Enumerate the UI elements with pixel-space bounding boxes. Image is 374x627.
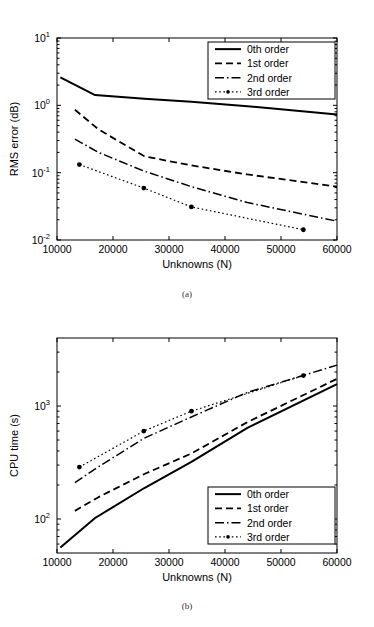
legend-label-3rd-order: 3rd order — [247, 531, 290, 543]
x-tick-label: 50000 — [266, 243, 295, 255]
legend-marker — [226, 535, 230, 539]
data-point-marker — [189, 409, 194, 414]
legend-label-0th-order: 0th order — [247, 43, 290, 55]
x-tick-label: 10000 — [42, 556, 71, 568]
data-point-marker — [77, 465, 82, 470]
x-tick-label: 20000 — [98, 243, 127, 255]
chart-panel-rms-error: 10000200003000040000500006000010-210-110… — [0, 0, 374, 313]
series-line-2nd-order — [75, 139, 337, 221]
legend-label-3rd-order: 3rd order — [247, 86, 290, 98]
data-point-marker — [77, 162, 82, 167]
legend-marker — [226, 90, 230, 94]
y-tick-label: 10-1 — [32, 165, 50, 179]
figure-container: 10000200003000040000500006000010-210-110… — [0, 0, 374, 627]
chart-panel-cpu-time: 100002000030000400005000060000102103Unkn… — [0, 313, 374, 627]
rms-error-plot: 10000200003000040000500006000010-210-110… — [0, 0, 374, 313]
data-point-marker — [141, 429, 146, 434]
series-line-3rd-order — [79, 376, 303, 468]
series-line-1st-order — [75, 110, 337, 187]
caption-a: (a) — [0, 289, 374, 299]
legend-label-1st-order: 1st order — [247, 502, 289, 514]
legend-label-2nd-order: 2nd order — [247, 72, 292, 84]
data-point-marker — [301, 227, 306, 232]
legend-label-2nd-order: 2nd order — [247, 517, 292, 529]
legend-label-0th-order: 0th order — [247, 488, 290, 500]
y-tick-label: 101 — [34, 30, 50, 44]
data-point-marker — [141, 186, 146, 191]
x-tick-label: 50000 — [266, 556, 295, 568]
y-tick-label: 103 — [34, 398, 50, 412]
x-tick-label: 30000 — [154, 243, 183, 255]
x-tick-label: 10000 — [42, 243, 71, 255]
x-tick-label: 30000 — [154, 556, 183, 568]
y-tick-label: 102 — [34, 511, 50, 525]
x-tick-label: 60000 — [322, 243, 351, 255]
x-tick-label: 40000 — [210, 243, 239, 255]
series-line-3rd-order — [79, 165, 303, 230]
y-tick-label: 100 — [34, 97, 50, 111]
x-tick-label: 60000 — [322, 556, 351, 568]
x-tick-label: 20000 — [98, 556, 127, 568]
y-axis-title: RMS error (dB) — [8, 102, 20, 177]
data-point-marker — [189, 205, 194, 210]
x-axis-title: Unknowns (N) — [162, 258, 232, 270]
cpu-time-plot: 100002000030000400005000060000102103Unkn… — [0, 313, 374, 627]
x-axis-title: Unknowns (N) — [162, 571, 232, 583]
data-point-marker — [301, 373, 306, 378]
x-tick-label: 40000 — [210, 556, 239, 568]
series-line-2nd-order — [75, 365, 337, 482]
y-axis-title: CPU time (s) — [8, 414, 20, 477]
caption-b: (b) — [0, 601, 374, 611]
legend-label-1st-order: 1st order — [247, 57, 289, 69]
